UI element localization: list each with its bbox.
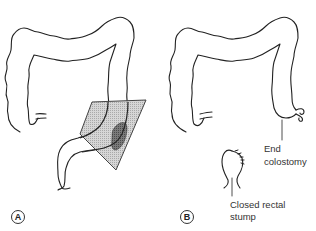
- colon-b-inner: [191, 44, 296, 126]
- colon-diagram: [0, 0, 316, 231]
- panel-a-badge: A: [11, 210, 25, 224]
- rectal-stump-label-line1: Closed rectal: [230, 199, 285, 210]
- ileum-b: [200, 112, 212, 119]
- end-colostomy-label-line2: colostomy: [264, 156, 307, 167]
- rectal-stump: [222, 150, 244, 196]
- end-colostomy-label-line1: End: [264, 143, 281, 154]
- resection-zone: [80, 100, 146, 170]
- colostomy-stoma: [296, 109, 304, 122]
- panel-b-colon: [169, 17, 304, 140]
- rectal-stump-label-line2: stump: [230, 211, 256, 222]
- ileum-a: [36, 114, 46, 119]
- panel-b-badge: B: [180, 210, 194, 224]
